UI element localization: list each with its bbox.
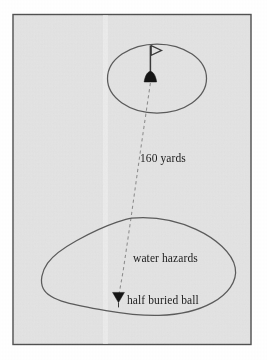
figure-root: 160 yards water hazards half buried ball xyxy=(0,0,267,360)
half-buried-ball-label: half buried ball xyxy=(127,294,199,306)
golf-hole-diagram: 160 yards water hazards half buried ball xyxy=(0,0,267,360)
water-hazard-label: water hazards xyxy=(133,252,198,264)
distance-label: 160 yards xyxy=(140,152,186,165)
